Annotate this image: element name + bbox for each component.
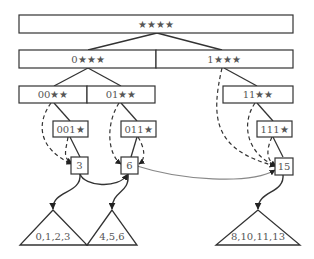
node-label: 00★★	[38, 89, 69, 100]
leaf-label: 6	[126, 160, 132, 171]
leaf-nodes: 3 6 15	[71, 157, 293, 175]
leaf-label: 15	[278, 161, 291, 172]
node-label: 011★	[124, 124, 152, 135]
node-label: 11★★	[243, 89, 274, 100]
trie-level-1: 0★★★ 1★★★	[19, 50, 293, 68]
node-label: 0★★★	[71, 54, 104, 65]
trie-level-3: 001★ 011★ 111★	[53, 121, 292, 137]
node-label: ★★★★	[138, 19, 174, 30]
node-label: 001★	[56, 124, 84, 135]
leaf-label: 3	[76, 160, 82, 171]
node-label: 111★	[260, 124, 288, 135]
trie-level-2: 00★★ 01★★ 11★★	[19, 86, 293, 103]
subtrees: 0,1,2,3 4,5,6 8,10,11,13	[20, 210, 300, 245]
trie-root: ★★★★	[19, 15, 293, 33]
subtree-label: 0,1,2,3	[36, 231, 71, 242]
trie-diagram: ★★★★ 0★★★ 1★★★ 00★★ 01★★ 11★★ 001★ 011★ …	[0, 0, 314, 259]
node-label: 01★★	[106, 89, 137, 100]
subtree-label: 4,5,6	[99, 231, 124, 242]
node-label: 1★★★	[207, 54, 240, 65]
subtree-label: 8,10,11,13	[231, 231, 285, 242]
